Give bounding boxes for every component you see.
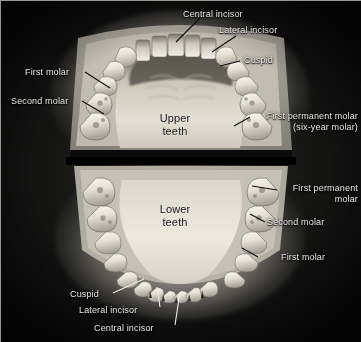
callout-first-permanent-molar-upper: First permanent molar (six-year molar) <box>250 111 358 133</box>
callout-central-incisor-upper: Central incisor <box>183 9 243 20</box>
callout-first-permanent-molar-lower: First permanent molar <box>272 183 358 205</box>
callout-first-permanent-molar-upper-line2: (six-year molar) <box>250 122 358 133</box>
region-label-upper-teeth: Upper teeth <box>140 112 210 138</box>
dental-casts-illustration <box>0 0 361 342</box>
callout-lateral-incisor-lower: Lateral incisor <box>79 305 137 316</box>
region-label-lower-teeth: Lower teeth <box>140 203 210 229</box>
callout-cuspid-upper: Cuspid <box>244 55 273 66</box>
callout-first-permanent-molar-lower-line2: molar <box>272 194 358 205</box>
region-label-upper-teeth-line2: teeth <box>140 125 210 138</box>
callout-second-molar-upper-left: Second molar <box>11 96 68 107</box>
callout-first-permanent-molar-upper-line1: First permanent molar <box>250 111 358 122</box>
callout-central-incisor-lower: Central incisor <box>94 323 154 334</box>
callout-first-molar-lower: First molar <box>281 252 325 263</box>
callout-second-molar-lower: Second molar <box>267 217 324 228</box>
upper-cast <box>70 25 292 162</box>
callout-lateral-incisor-upper: Lateral incisor <box>219 25 277 36</box>
callout-cuspid-lower: Cuspid <box>70 289 99 300</box>
callout-first-permanent-molar-lower-line1: First permanent <box>272 183 358 194</box>
dental-anatomy-figure: Central incisor Lateral incisor Cuspid F… <box>0 0 361 342</box>
callout-first-molar-upper-left: First molar <box>25 67 69 78</box>
region-label-lower-teeth-line2: teeth <box>140 216 210 229</box>
region-label-lower-teeth-line1: Lower <box>140 203 210 216</box>
region-label-upper-teeth-line1: Upper <box>140 112 210 125</box>
